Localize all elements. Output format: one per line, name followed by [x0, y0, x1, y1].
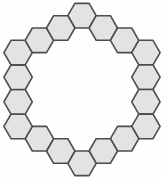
- hex-right-col-2: [132, 65, 160, 90]
- hex-right-col-3: [132, 90, 160, 115]
- hex-left-col-4: [4, 114, 32, 139]
- hex-right-col-1: [132, 40, 160, 65]
- hexagon-ring-figure: [0, 0, 164, 179]
- hex-left-col-3: [4, 90, 32, 115]
- hexagon-ring-canvas: [0, 0, 164, 179]
- hex-top-left-1: [47, 16, 75, 41]
- hex-left-col-2: [4, 65, 32, 90]
